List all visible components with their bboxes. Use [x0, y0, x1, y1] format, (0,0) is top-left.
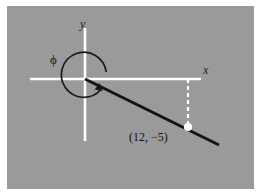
point-coordinate-label: (12, −5) [129, 131, 168, 143]
y-axis-label: y [80, 18, 85, 30]
x-axis-label: x [203, 64, 208, 76]
plot-canvas [0, 0, 262, 196]
phi-angle-label: ϕ [50, 53, 57, 66]
marked-point [184, 123, 192, 131]
angle-diagram-figure: y x ϕ (12, −5) [0, 0, 262, 196]
